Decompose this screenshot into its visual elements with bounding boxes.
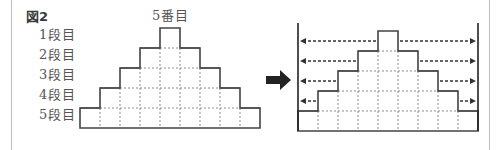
diagram-canvas: [0, 0, 501, 150]
pyramid-outline: [80, 28, 260, 128]
arrowhead-right-icon: [470, 98, 476, 104]
arrowhead-left-icon: [300, 38, 306, 44]
left-pyramid: [80, 28, 260, 128]
right-pyramid: [298, 23, 478, 131]
arrowhead-left-icon: [300, 58, 306, 64]
arrowhead-right-icon: [470, 58, 476, 64]
arrowhead-left-icon: [300, 98, 306, 104]
arrowhead-left-icon: [300, 78, 306, 84]
arrowhead-right-icon: [470, 38, 476, 44]
transform-arrow-shape: [266, 70, 291, 90]
right-arrow-icon: [266, 70, 291, 90]
arrowhead-right-icon: [470, 78, 476, 84]
